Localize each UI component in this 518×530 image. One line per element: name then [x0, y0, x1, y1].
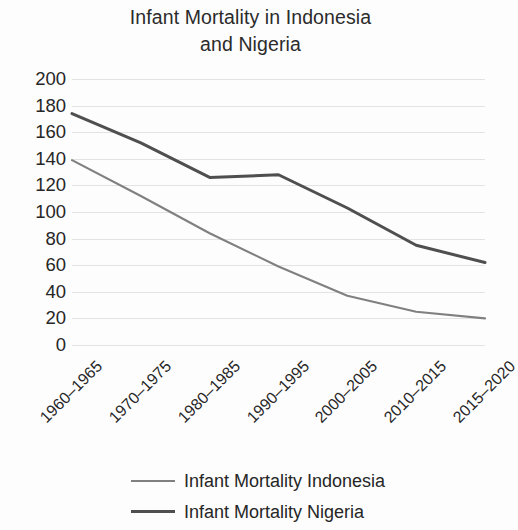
legend-item[interactable]: Infant Mortality Nigeria [0, 496, 501, 527]
legend-item-label: Infant Mortality Indonesia [184, 472, 385, 490]
chart-legend: Infant Mortality IndonesiaInfant Mortali… [0, 465, 501, 527]
legend-item-label: Infant Mortality Nigeria [184, 503, 364, 521]
legend-item[interactable]: Infant Mortality Indonesia [0, 465, 501, 496]
legend-line-swatch [131, 480, 175, 482]
legend-line-swatch [131, 510, 175, 513]
